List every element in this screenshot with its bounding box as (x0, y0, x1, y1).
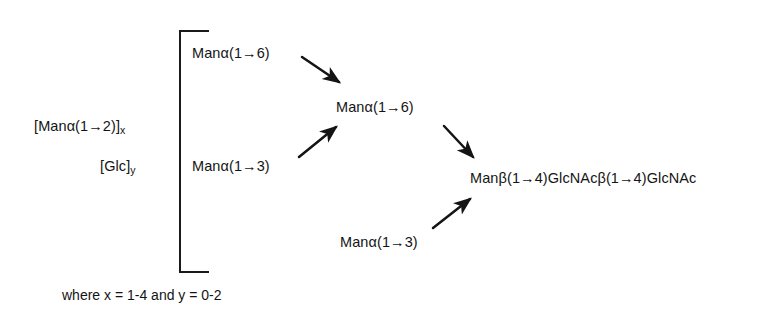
node-middle-man-alpha-1-6: Manα(1→6) (336, 100, 414, 115)
node-left-repeat-glucose-base: [Glc] (100, 158, 130, 174)
node-left-repeat-glucose-subscript: y (130, 164, 135, 176)
arrow-lower-branch-to-man6 (299, 127, 336, 157)
glycan-structure-diagram: [Manα(1→2)]x [Glc]y Manα(1→6) Manα(1→3) … (0, 0, 777, 318)
node-core-chain: Manβ(1→4)GlcNAcβ(1→4)GlcNAc (470, 171, 696, 186)
node-bottom-man-alpha-1-3: Manα(1→3) (340, 235, 418, 250)
node-branch-lower-man-alpha-1-3: Manα(1→3) (192, 159, 270, 174)
node-left-repeat-glucose: [Glc]y (100, 159, 136, 175)
node-left-repeat-mannose-subscript: x (120, 124, 125, 136)
arrow-man6-to-core (444, 126, 473, 157)
node-branch-upper-man-alpha-1-6: Manα(1→6) (192, 46, 270, 61)
node-left-repeat-mannose-base: [Manα(1→2)] (34, 118, 120, 134)
caption-variable-ranges: where x = 1-4 and y = 0-2 (62, 288, 222, 302)
arrow-man3-to-core (433, 199, 470, 228)
grouping-bracket (179, 30, 209, 273)
node-left-repeat-mannose: [Manα(1→2)]x (34, 119, 125, 135)
arrow-upper-branch-to-man6 (302, 57, 339, 82)
